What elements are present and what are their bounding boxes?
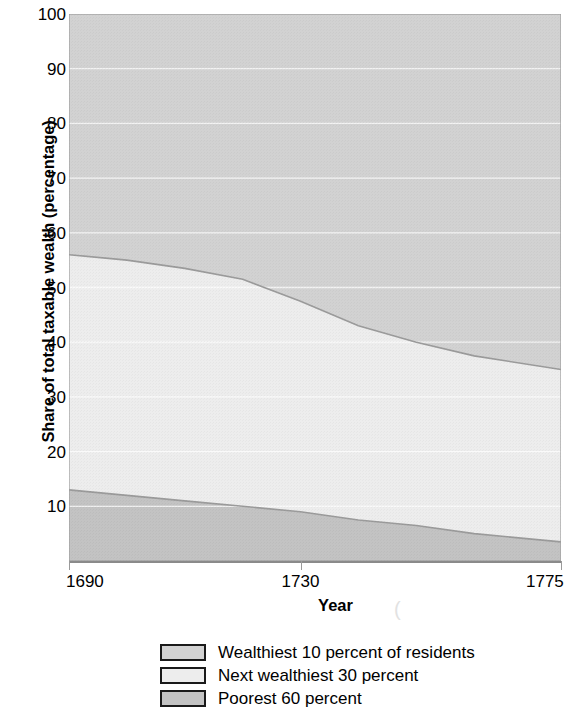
y-tick-label: 100 bbox=[4, 6, 66, 23]
plot-area bbox=[69, 14, 561, 561]
legend-swatch-icon bbox=[160, 644, 206, 661]
y-tick-label: 90 bbox=[4, 60, 66, 77]
chart-legend: Wealthiest 10 percent of residentsNext w… bbox=[160, 641, 560, 710]
x-tick-label: 1775 bbox=[526, 572, 564, 592]
legend-label: Next wealthiest 30 percent bbox=[218, 667, 418, 684]
x-tick-mark bbox=[69, 561, 70, 570]
y-tick-label: 60 bbox=[4, 224, 66, 241]
y-tick-label: 30 bbox=[4, 388, 66, 405]
x-tick-label: 1730 bbox=[282, 572, 320, 592]
y-tick-label: 80 bbox=[4, 115, 66, 132]
legend-label: Wealthiest 10 percent of residents bbox=[218, 644, 475, 661]
x-tick-label: 1690 bbox=[66, 572, 104, 592]
legend-item[interactable]: Wealthiest 10 percent of residents bbox=[160, 641, 560, 664]
legend-item[interactable]: Next wealthiest 30 percent bbox=[160, 664, 560, 687]
x-axis-title: Year bbox=[318, 596, 353, 614]
x-axis-line bbox=[69, 561, 561, 563]
x-tick-mark bbox=[301, 561, 302, 570]
legend-swatch-icon bbox=[160, 667, 206, 684]
legend-item[interactable]: Poorest 60 percent bbox=[160, 687, 560, 710]
legend-label: Poorest 60 percent bbox=[218, 690, 362, 707]
y-tick-label: 10 bbox=[4, 498, 66, 515]
y-tick-label: 20 bbox=[4, 443, 66, 460]
chart-figure: Share of total taxable wealth (percentag… bbox=[0, 0, 585, 713]
x-axis-title-wrap: Year bbox=[0, 596, 585, 615]
x-tick-mark bbox=[561, 561, 562, 570]
y-tick-label: 70 bbox=[4, 170, 66, 187]
y-tick-label: 50 bbox=[4, 279, 66, 296]
y-tick-label: 40 bbox=[4, 334, 66, 351]
stacked-area-svg bbox=[69, 14, 561, 561]
scan-artifact-mark: ( bbox=[394, 598, 401, 621]
legend-swatch-icon bbox=[160, 690, 206, 707]
y-axis-tick-labels: 100908070605040302010 bbox=[0, 0, 66, 600]
